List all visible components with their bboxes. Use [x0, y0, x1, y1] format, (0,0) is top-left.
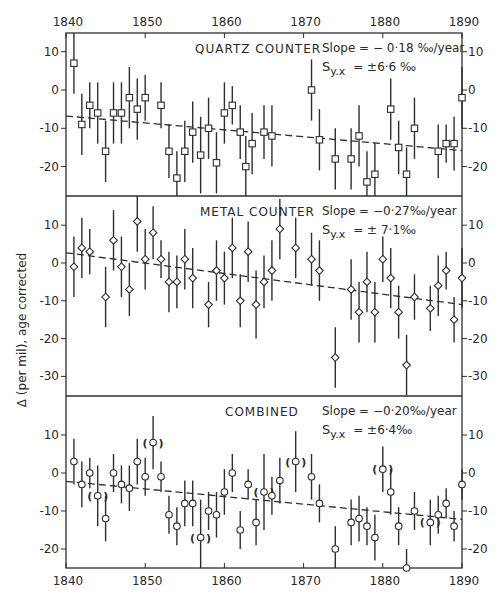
circle-marker: [395, 523, 402, 530]
data-point: [78, 218, 86, 278]
data-point: [434, 255, 442, 315]
x-tick-label: 1890: [449, 15, 480, 29]
square-marker: [118, 110, 124, 116]
data-point: [395, 286, 403, 339]
diamond-marker: [308, 255, 316, 263]
x-tick-label: 1890: [449, 574, 480, 588]
square-marker: [79, 121, 85, 127]
data-point: [332, 128, 338, 189]
data-point: [387, 248, 395, 308]
square-marker: [102, 148, 108, 154]
y-tick-label-left: -10: [39, 294, 59, 308]
diamond-marker: [442, 267, 450, 275]
panel-quartz-counter: 101000-10-10-20-20QUARTZ COUNTERSlope = …: [39, 33, 487, 196]
diamond-marker: [165, 278, 173, 286]
data-point: [205, 282, 213, 327]
bracket-right: ): [301, 456, 306, 469]
data-point: [316, 109, 322, 170]
circle-marker: [94, 493, 101, 500]
data-point: [372, 144, 378, 196]
data-point: [427, 286, 435, 331]
y-tick-label-left: -10: [39, 121, 59, 135]
data-point: [356, 105, 362, 166]
data-point: [205, 492, 212, 530]
data-point: [166, 124, 172, 178]
data-point: [189, 248, 197, 308]
data-point: [411, 492, 418, 530]
data-point: [118, 465, 125, 503]
y-tick-label-right: -30: [468, 369, 488, 383]
data-point: [213, 492, 220, 538]
x-tick-label: 1880: [370, 15, 401, 29]
circle-marker: [372, 534, 379, 541]
panel-title: METAL COUNTER: [200, 205, 315, 219]
data-point: [363, 252, 371, 312]
circle-marker: [316, 500, 323, 507]
data-point: [174, 507, 181, 545]
diamond-marker: [347, 286, 355, 294]
x-tick-label: 1850: [132, 574, 163, 588]
data-point: [142, 458, 149, 496]
y-tick-label-right: 10: [468, 218, 483, 232]
square-marker: [71, 60, 77, 66]
data-point: [442, 252, 450, 290]
data-point: [332, 526, 339, 568]
data-point: [110, 82, 116, 143]
diamond-marker: [458, 274, 466, 282]
data-point: [110, 210, 118, 270]
diamond-marker: [268, 267, 276, 275]
y-tick-label-right: -10: [468, 294, 488, 308]
data-point: [260, 255, 268, 308]
circle-marker: [451, 523, 458, 530]
data-point: [205, 98, 211, 159]
square-marker: [332, 156, 338, 162]
diamond-marker: [229, 244, 237, 252]
data-point: [79, 94, 85, 155]
circle-marker: [229, 470, 236, 477]
square-marker: [364, 179, 370, 185]
diamond-marker: [126, 286, 134, 294]
bracket-left: (: [253, 486, 258, 499]
diamond-marker: [363, 278, 371, 286]
circle-marker: [427, 519, 434, 526]
diamond-marker: [395, 308, 403, 316]
diamond-marker: [450, 316, 458, 324]
data-point: [70, 237, 78, 297]
syx-annotation: Sy.x= ± 7·1‰: [322, 222, 416, 241]
data-point: [126, 263, 134, 316]
circle-marker: [403, 565, 410, 572]
data-point: [347, 259, 355, 319]
square-marker: [126, 94, 132, 100]
data-point: [102, 121, 108, 182]
y-tick-label-right: 10: [468, 45, 483, 59]
data-point: [182, 481, 189, 527]
y-tick-label-right: 10: [468, 428, 483, 442]
diamond-marker: [133, 218, 141, 226]
data-point: [253, 500, 260, 546]
y-tick-label-left: -20: [39, 332, 59, 346]
y-tick-label-right: 0: [468, 466, 476, 480]
bracket-left: (: [143, 437, 148, 450]
square-marker: [182, 148, 188, 154]
square-marker: [174, 175, 180, 181]
data-point: [348, 128, 354, 189]
bracket-left: (: [372, 463, 377, 476]
x-axis-bottom: 184018501860187018801890: [53, 563, 480, 588]
circle-marker: [197, 534, 204, 541]
data-point: [403, 549, 410, 571]
y-tick-label-right: -10: [468, 121, 488, 135]
circle-marker: [443, 500, 450, 507]
diamond-marker: [316, 267, 324, 275]
data-point: [190, 101, 196, 162]
y-tick-label-right: -10: [468, 504, 488, 518]
circle-marker: [261, 489, 268, 496]
diamond-marker: [110, 237, 118, 245]
bracket-right: ): [206, 532, 211, 545]
data-point: [237, 511, 244, 549]
bracket-left: (: [190, 532, 195, 545]
circle-marker: [134, 458, 141, 465]
square-marker: [190, 129, 196, 135]
data-point: [86, 229, 94, 274]
square-marker: [243, 163, 249, 169]
slope-annotation: Slope = − 0·18 ‰/year: [322, 41, 464, 55]
